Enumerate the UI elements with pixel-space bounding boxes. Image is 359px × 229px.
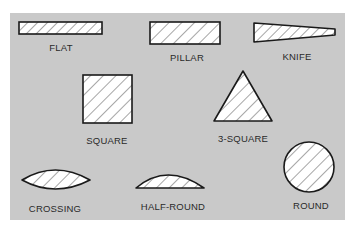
pillar-label: PILLAR bbox=[170, 53, 204, 63]
flat-label: FLAT bbox=[49, 43, 72, 53]
knife-shape-icon bbox=[254, 23, 335, 42]
flat-shape-icon bbox=[19, 22, 102, 34]
square-shape-icon bbox=[83, 75, 132, 123]
three-square-label: 3-SQUARE bbox=[218, 134, 268, 144]
pillar-shape-icon bbox=[150, 22, 220, 44]
shapes-canvas bbox=[0, 0, 359, 229]
half-round-shape-icon bbox=[136, 175, 204, 188]
three-square-shape-icon bbox=[214, 71, 272, 121]
crossing-shape-icon bbox=[22, 170, 90, 189]
round-shape-icon bbox=[284, 142, 334, 192]
round-label: ROUND bbox=[293, 201, 329, 211]
square-label: SQUARE bbox=[86, 136, 127, 146]
knife-label: KNIFE bbox=[283, 52, 312, 62]
half-round-label: HALF-ROUND bbox=[141, 202, 205, 212]
crossing-label: CROSSING bbox=[29, 204, 81, 214]
